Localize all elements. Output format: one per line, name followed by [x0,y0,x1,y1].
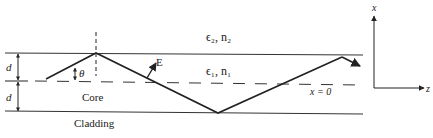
cladding-label: Cladding [74,117,115,129]
d-label-top: d [6,61,12,73]
waveguide-diagram: ϵ₂, n₂ ϵ₁, n₁ Core Cladding E θ d d x = … [0,0,433,138]
bottom-interface [5,111,363,114]
upper-medium-label: ϵ₂, n₂ [206,30,231,44]
lower-medium-label: ϵ₁, n₁ [206,64,231,78]
ray-arrow [342,57,360,66]
e-field-arrow [147,63,156,78]
z-axis-label: z [425,83,430,94]
center-dashed-line [35,81,360,85]
d-label-bottom: d [6,91,12,103]
field-label: E [156,56,163,68]
core-label: Core [82,91,104,103]
x-axis-label: x [371,2,377,13]
angle-label: θ [79,67,85,79]
top-interface [5,53,363,55]
center-line-label: x = 0 [309,86,331,97]
